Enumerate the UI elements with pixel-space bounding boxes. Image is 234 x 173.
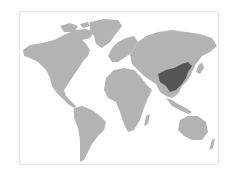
world-map bbox=[20, 12, 218, 164]
north-america bbox=[23, 29, 94, 108]
australia bbox=[178, 116, 208, 140]
south-america bbox=[74, 106, 106, 162]
new-zealand bbox=[209, 138, 215, 150]
japan bbox=[196, 62, 204, 74]
southeast-asia bbox=[166, 98, 192, 114]
map-frame bbox=[19, 11, 219, 165]
madagascar bbox=[144, 114, 150, 126]
